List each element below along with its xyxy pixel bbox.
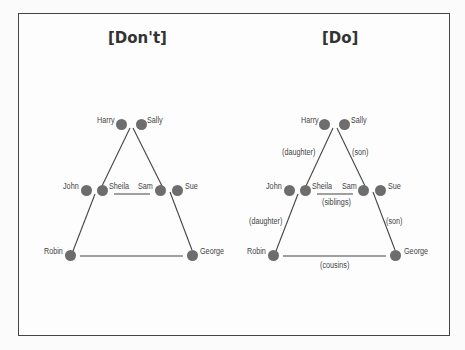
node-sue	[172, 185, 183, 196]
node-john	[284, 185, 295, 196]
node-robin	[65, 250, 76, 261]
relation-sheila-daughter: (daughter)	[282, 147, 315, 157]
line-sally-sam	[337, 128, 365, 186]
line-sue-george	[170, 192, 192, 250]
label-sally: Sally	[147, 115, 163, 125]
line-harry-sheila	[102, 128, 130, 186]
node-sheila	[97, 185, 108, 196]
relation-robin-daughter: (daughter)	[249, 216, 282, 226]
node-george	[187, 250, 198, 261]
node-harry	[116, 119, 127, 130]
label-robin: Robin	[247, 246, 266, 256]
line-harry-sheila	[306, 128, 333, 186]
node-sheila	[300, 185, 311, 196]
node-john	[81, 185, 92, 196]
label-sheila: Sheila	[109, 181, 129, 191]
relation-sam-son: (son)	[352, 147, 368, 157]
connector-lines	[0, 0, 465, 350]
label-john: John	[63, 181, 79, 191]
node-robin	[268, 250, 279, 261]
label-harry: Harry	[301, 115, 319, 125]
node-sally	[339, 119, 350, 130]
label-sheila: Sheila	[312, 181, 332, 191]
label-sam: Sam	[138, 181, 153, 191]
label-harry: Harry	[97, 115, 115, 125]
node-sally	[136, 119, 147, 130]
label-sally: Sally	[351, 115, 367, 125]
node-george	[390, 250, 401, 261]
label-sam: Sam	[342, 181, 357, 191]
line-sally-sam	[133, 128, 162, 186]
relation-george-son: (son)	[386, 216, 402, 226]
label-george: George	[404, 246, 428, 256]
node-sue	[375, 185, 386, 196]
label-robin: Robin	[44, 246, 63, 256]
label-john: John	[266, 181, 282, 191]
node-sam	[358, 185, 369, 196]
node-harry	[319, 119, 330, 130]
relation-siblings: (siblings)	[322, 197, 351, 207]
label-sue: Sue	[185, 181, 198, 191]
relation-cousins: (cousins)	[320, 260, 349, 270]
label-sue: Sue	[388, 181, 401, 191]
node-sam	[155, 185, 166, 196]
line-john-robin	[73, 194, 95, 251]
label-george: George	[200, 246, 224, 256]
